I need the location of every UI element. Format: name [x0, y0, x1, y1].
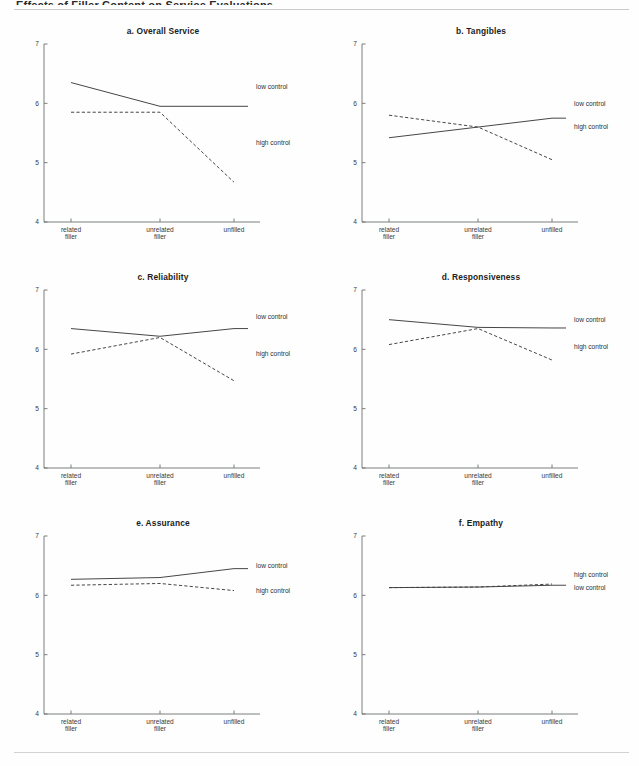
series-line-low-control	[389, 585, 566, 587]
y-tick-label: 4	[35, 710, 39, 717]
x-tick-label: unrelated	[146, 472, 174, 479]
chart-plot-area: 7654relatedfillerunrelatedfillerunfilled…	[8, 518, 318, 753]
chart-panel-1: a. Overall Service7654relatedfillerunrel…	[8, 26, 318, 261]
series-line-high-control	[71, 112, 234, 182]
chart-panel-6: f. Empathy7654relatedfillerunrelatedfill…	[326, 518, 636, 753]
series-legend-label: high control	[574, 343, 609, 351]
x-tick-label: unfilled	[224, 472, 245, 479]
y-tick-label: 7	[35, 286, 39, 293]
y-tick-label: 4	[35, 464, 39, 471]
series-line-low-control	[71, 329, 248, 337]
x-tick-label: unrelated	[464, 718, 492, 725]
y-tick-label: 6	[353, 346, 357, 353]
series-legend-label: low control	[574, 316, 606, 323]
x-tick-label: related	[61, 472, 81, 479]
x-tick-label-second-line: filler	[383, 233, 396, 240]
y-tick-label: 6	[35, 592, 39, 599]
chart-plot-area: 7654relatedfillerunrelatedfillerunfilled…	[326, 26, 636, 261]
x-tick-label: related	[379, 472, 399, 479]
x-tick-label: unrelated	[146, 718, 174, 725]
series-line-low-control	[71, 569, 248, 580]
x-tick-label-second-line: filler	[472, 479, 485, 486]
x-tick-label: related	[61, 718, 81, 725]
y-tick-label: 5	[35, 405, 39, 412]
bottom-divider-rule	[14, 752, 629, 753]
series-line-low-control	[389, 320, 566, 328]
series-legend-label: low control	[256, 83, 288, 90]
series-legend-label: low control	[256, 562, 288, 569]
x-tick-label: related	[379, 718, 399, 725]
chart-plot-area: 7654relatedfillerunrelatedfillerunfilled…	[8, 26, 318, 261]
x-tick-label-second-line: filler	[65, 479, 78, 486]
x-tick-label: unfilled	[224, 226, 245, 233]
series-legend-label: high control	[256, 350, 291, 358]
x-tick-label-second-line: filler	[472, 725, 485, 732]
y-tick-label: 5	[353, 651, 357, 658]
x-tick-label: unfilled	[542, 472, 563, 479]
x-tick-label-second-line: filler	[154, 233, 167, 240]
chart-plot-area: 7654relatedfillerunrelatedfillerunfilled…	[326, 518, 636, 753]
x-tick-label: related	[61, 226, 81, 233]
y-tick-label: 7	[353, 40, 357, 47]
series-legend-label: high control	[574, 571, 609, 579]
chart-plot-area: 7654relatedfillerunrelatedfillerunfilled…	[326, 272, 636, 507]
series-line-low-control	[389, 118, 566, 138]
x-tick-label-second-line: filler	[154, 479, 167, 486]
x-tick-label-second-line: filler	[383, 479, 396, 486]
x-tick-label: unfilled	[542, 226, 563, 233]
y-tick-label: 6	[35, 100, 39, 107]
x-tick-label-second-line: filler	[65, 233, 78, 240]
y-tick-label: 5	[353, 405, 357, 412]
y-tick-label: 6	[353, 100, 357, 107]
series-line-high-control	[71, 337, 234, 380]
series-line-high-control	[389, 329, 552, 360]
x-tick-label: unrelated	[464, 472, 492, 479]
top-divider-rule	[14, 9, 629, 10]
x-tick-label-second-line: filler	[383, 725, 396, 732]
series-legend-label: high control	[574, 123, 609, 131]
x-tick-label: unfilled	[224, 718, 245, 725]
series-legend-label: high control	[256, 587, 291, 595]
y-tick-label: 4	[35, 218, 39, 225]
chart-panel-5: e. Assurance7654relatedfillerunrelatedfi…	[8, 518, 318, 753]
y-tick-label: 4	[353, 218, 357, 225]
y-tick-label: 5	[35, 159, 39, 166]
chart-panel-3: c. Reliability7654relatedfillerunrelated…	[8, 272, 318, 507]
x-tick-label-second-line: filler	[472, 233, 485, 240]
y-tick-label: 5	[35, 651, 39, 658]
series-legend-label: low control	[574, 584, 606, 591]
x-tick-label-second-line: filler	[65, 725, 78, 732]
series-line-low-control	[71, 83, 248, 107]
y-tick-label: 4	[353, 464, 357, 471]
y-tick-label: 5	[353, 159, 357, 166]
y-tick-label: 7	[353, 286, 357, 293]
x-tick-label: unrelated	[464, 226, 492, 233]
running-header: Effects of Filler Content on Service Eva…	[16, 0, 273, 5]
series-legend-label: high control	[256, 139, 291, 147]
y-tick-label: 4	[353, 710, 357, 717]
chart-plot-area: 7654relatedfillerunrelatedfillerunfilled…	[8, 272, 318, 507]
x-tick-label-second-line: filler	[154, 725, 167, 732]
y-tick-label: 6	[35, 346, 39, 353]
chart-panel-2: b. Tangibles7654relatedfillerunrelatedfi…	[326, 26, 636, 261]
y-tick-label: 7	[353, 532, 357, 539]
y-tick-label: 6	[353, 592, 357, 599]
series-line-high-control	[71, 583, 234, 590]
x-tick-label: unfilled	[542, 718, 563, 725]
series-legend-label: low control	[574, 100, 606, 107]
x-tick-label: unrelated	[146, 226, 174, 233]
y-tick-label: 7	[35, 40, 39, 47]
chart-panel-4: d. Responsiveness7654relatedfillerunrela…	[326, 272, 636, 507]
series-legend-label: low control	[256, 313, 288, 320]
series-line-high-control	[389, 115, 552, 160]
figure-page: Effects of Filler Content on Service Eva…	[0, 0, 639, 766]
x-tick-label: related	[379, 226, 399, 233]
y-tick-label: 7	[35, 532, 39, 539]
